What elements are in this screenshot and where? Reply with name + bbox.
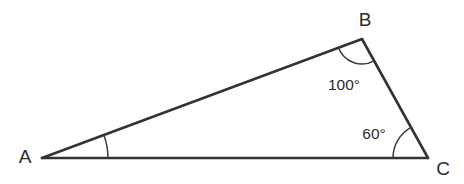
triangle-figure: A B C 100° 60°	[0, 0, 464, 184]
vertex-label-a: A	[19, 146, 32, 167]
triangle-diagram: A B C 100° 60°	[0, 0, 464, 184]
angle-arc-a	[104, 135, 108, 158]
vertex-label-c: C	[436, 158, 450, 179]
angle-arc-c	[393, 127, 411, 158]
vertex-label-b: B	[359, 9, 372, 30]
angle-label-b: 100°	[328, 76, 360, 93]
edge-ab	[42, 39, 362, 158]
angle-label-c: 60°	[362, 125, 385, 142]
